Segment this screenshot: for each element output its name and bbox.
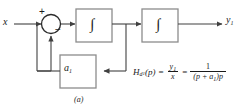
formula-fraction-2: 1 (p + a1)p bbox=[190, 62, 226, 81]
formula-frac2-den-close: )p bbox=[216, 72, 223, 81]
formula-equals-2: = bbox=[182, 67, 187, 77]
summing-junction-minus-sign: − bbox=[55, 25, 61, 35]
feedback-gain-subscript: 1 bbox=[69, 68, 72, 74]
formula-h-subsubscript: 1 bbox=[143, 71, 146, 76]
formula-frac2-den-open: (p + a bbox=[193, 72, 213, 81]
formula-fraction-1-denominator: x bbox=[168, 71, 178, 81]
formula-fraction-2-numerator: 1 bbox=[203, 62, 213, 71]
diagram-wires-and-shapes bbox=[0, 0, 249, 111]
formula-h-argument: (p) bbox=[145, 67, 156, 77]
feedback-gain-label: a1 bbox=[64, 63, 72, 73]
formula-fraction-1-numerator: y1 bbox=[167, 62, 180, 71]
formula-frac2-den-sub: 1 bbox=[213, 76, 216, 82]
output-signal-label: y1 bbox=[226, 15, 233, 25]
block-diagram-figure: x y1 + − ∫ ∫ a1 (a) Hd1(p) = y1 x = 1 (p… bbox=[0, 0, 249, 111]
formula-fraction-2-denominator: (p + a1)p bbox=[190, 71, 226, 81]
formula-frac1-num-sub: 1 bbox=[173, 66, 176, 72]
figure-caption: (a) bbox=[74, 96, 83, 104]
formula-fraction-1: y1 x bbox=[167, 62, 180, 81]
integrator-2-symbol: ∫ bbox=[156, 17, 160, 32]
integrator-1-symbol: ∫ bbox=[90, 17, 94, 32]
transfer-function-formula: Hd1(p) = y1 x = 1 (p + a1)p bbox=[133, 62, 226, 81]
formula-equals-1: = bbox=[159, 67, 164, 77]
input-signal-label: x bbox=[3, 17, 7, 27]
summing-junction-plus-sign: + bbox=[39, 7, 45, 17]
